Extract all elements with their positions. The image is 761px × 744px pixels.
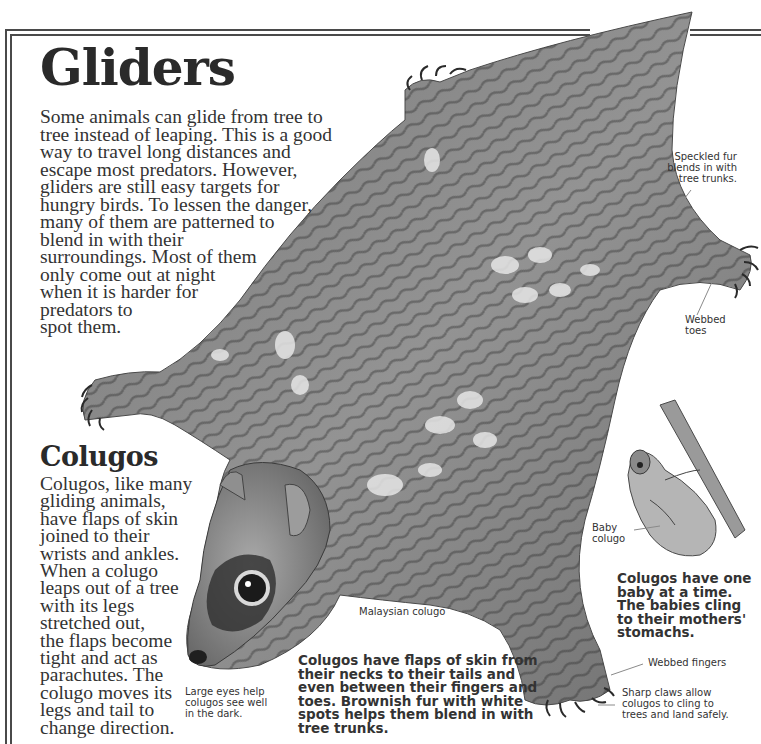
intro-line: many of them are patterned to	[40, 213, 370, 231]
gliders-page: Gliders Some animals can glide from tree…	[0, 0, 761, 744]
intro-line: way to travel long distances and	[40, 143, 370, 161]
annotation-species: Malaysian colugo	[359, 606, 445, 617]
caption-flaps: Colugos have flaps of skin from their ne…	[298, 654, 538, 736]
intro-line: Some animals can glide from tree to	[40, 108, 370, 126]
species-label: Malaysian colugo	[359, 606, 445, 617]
caption-line: tree trunks.	[298, 722, 538, 736]
caption-line: stomachs.	[617, 626, 752, 640]
intro-line: spot them.	[40, 318, 370, 336]
intro-line: surroundings. Most of them	[40, 248, 370, 266]
annotation-line: Sharp claws allow	[622, 687, 729, 698]
annotation-line: Baby	[592, 522, 625, 533]
eye-icon	[238, 574, 266, 602]
baby-colugo-illustration	[628, 400, 745, 556]
annotation-line: Speckled fur	[640, 151, 737, 162]
annotation-line: colugos see well	[185, 697, 267, 708]
annotation-line: Large eyes help	[185, 686, 267, 697]
annotation-line: trees and land safely.	[622, 709, 729, 720]
caption-one-baby: Colugos have one baby at a time. The bab…	[617, 572, 752, 640]
annotation-line: colugo	[592, 533, 625, 544]
colugos-line: joined to their	[40, 527, 192, 544]
annotation-line: colugos to cling to	[622, 698, 729, 709]
annotation-baby-colugo: Baby colugo	[592, 522, 625, 544]
annotation-line: tree trunks.	[640, 173, 737, 184]
colugos-line: change direction.	[40, 719, 192, 736]
intro-paragraph: Some animals can glide from tree to tree…	[40, 108, 370, 336]
annotation-line: in the dark.	[185, 708, 267, 719]
colugos-paragraph: Colugos, like many gliding animals, have…	[40, 475, 192, 736]
annotation-line: Webbed fingers	[648, 657, 726, 668]
annotation-sharp-claws: Sharp claws allow colugos to cling to tr…	[622, 687, 729, 720]
annotation-line: Webbed	[685, 314, 726, 325]
intro-line: gliders are still easy targets for	[40, 178, 370, 196]
annotation-line: toes	[685, 325, 726, 336]
annotation-speckled-fur: Speckled fur blends in with tree trunks.	[640, 151, 737, 184]
page-title: Gliders	[40, 40, 235, 96]
intro-line: when it is harder for	[40, 283, 370, 301]
annotation-large-eyes: Large eyes help colugos see well in the …	[185, 686, 267, 719]
annotation-line: blends in with	[640, 162, 737, 173]
annotation-webbed-toes: Webbed toes	[685, 314, 726, 336]
annotation-webbed-fingers: Webbed fingers	[648, 657, 726, 668]
colugos-heading: Colugos	[40, 442, 158, 472]
